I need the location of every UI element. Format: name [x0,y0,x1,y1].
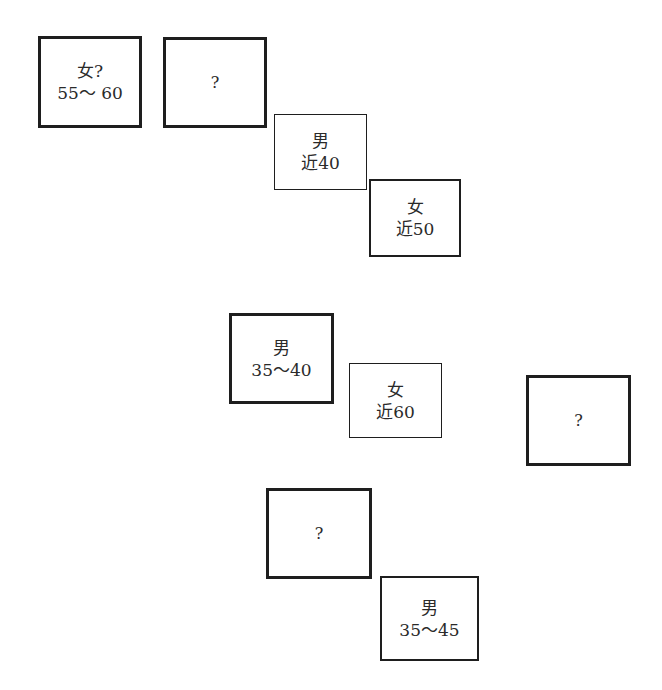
person-box-9: 男 35～45 [380,576,479,661]
gender-label: 女? [77,60,103,82]
gender-label: 男 [273,337,290,359]
person-box-5: 男 35～40 [229,313,334,404]
age-label: 55～ 60 [57,82,123,104]
unknown-box-1: ? [163,37,267,128]
unknown-box-8: ? [266,488,372,579]
gender-label: 男 [421,597,438,619]
unknown-box-7: ? [526,375,631,466]
unknown-mark: ? [315,523,324,545]
age-label: 近40 [301,152,340,174]
gender-label: 女 [387,379,404,401]
age-label: 近60 [376,401,415,423]
person-box-6: 女 近60 [349,363,442,438]
unknown-mark: ? [211,72,220,94]
person-box-1: 女? 55～ 60 [38,36,142,128]
age-label: 35～40 [251,359,311,381]
person-box-4: 女 近50 [369,179,461,257]
unknown-mark: ? [574,410,583,432]
age-label: 近50 [396,218,435,240]
gender-label: 男 [312,130,329,152]
age-label: 35～45 [399,619,459,641]
person-box-3: 男 近40 [274,114,367,190]
gender-label: 女 [407,196,424,218]
